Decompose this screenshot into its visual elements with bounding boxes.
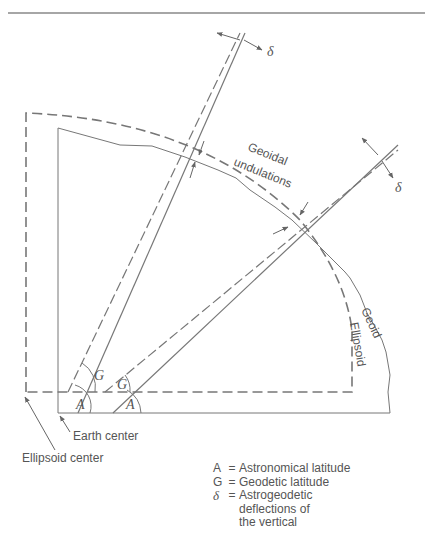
delta-arrow-top-left-icon bbox=[217, 33, 240, 40]
angle-label-A-right: A bbox=[125, 397, 135, 412]
undulation-arrow-shallow-top-icon bbox=[300, 202, 308, 215]
legend-row-A: A = Astronomical latitude bbox=[213, 462, 350, 476]
legend-text: Astrogeodetic deflections of the vertica… bbox=[239, 489, 312, 530]
undulation-arrow-shallow-left-icon bbox=[273, 227, 288, 234]
angle-label-A-left: A bbox=[75, 397, 85, 412]
ellipsoid-center-pointer-icon bbox=[25, 397, 55, 450]
legend-equals: = bbox=[225, 476, 239, 490]
geoid-outline bbox=[58, 128, 390, 413]
delta-label-top: δ bbox=[267, 44, 274, 59]
legend-symbol: A bbox=[213, 462, 225, 476]
earth-center-label: Earth center bbox=[73, 429, 138, 443]
ellipsoid-label: Ellipsoid bbox=[347, 321, 369, 367]
legend-symbol: δ bbox=[213, 489, 225, 530]
steep-geodetic-normal bbox=[68, 33, 240, 392]
legend-symbol: G bbox=[213, 476, 225, 490]
legend-text: Astronomical latitude bbox=[239, 462, 350, 476]
steep-astronomical-vertical bbox=[78, 33, 245, 413]
legend-row-delta: δ = Astrogeodetic deflections of the ver… bbox=[213, 489, 350, 530]
undulation-arrow-steep-top-icon bbox=[199, 141, 204, 155]
angle-label-G-left: G bbox=[94, 368, 104, 383]
legend-row-G: G = Geodetic latitude bbox=[213, 476, 350, 490]
delta-label-right: δ bbox=[395, 180, 402, 195]
legend-equals: = bbox=[225, 489, 239, 530]
angle-label-G-right: G bbox=[117, 377, 127, 392]
earth-center-pointer-icon bbox=[60, 416, 70, 432]
undulation-arrow-steep-bottom-icon bbox=[190, 162, 195, 178]
legend-text: Geodetic latitude bbox=[239, 476, 329, 490]
delta-arrow-right-down-icon bbox=[382, 161, 393, 178]
ellipsoid-center-label: Ellipsoid center bbox=[22, 451, 103, 465]
delta-arrow-top-right-icon bbox=[244, 40, 262, 50]
ellipsoid-outline bbox=[26, 113, 352, 392]
legend: A = Astronomical latitude G = Geodetic l… bbox=[213, 462, 350, 530]
delta-arrow-right-up-icon bbox=[362, 138, 378, 155]
legend-equals: = bbox=[225, 462, 239, 476]
